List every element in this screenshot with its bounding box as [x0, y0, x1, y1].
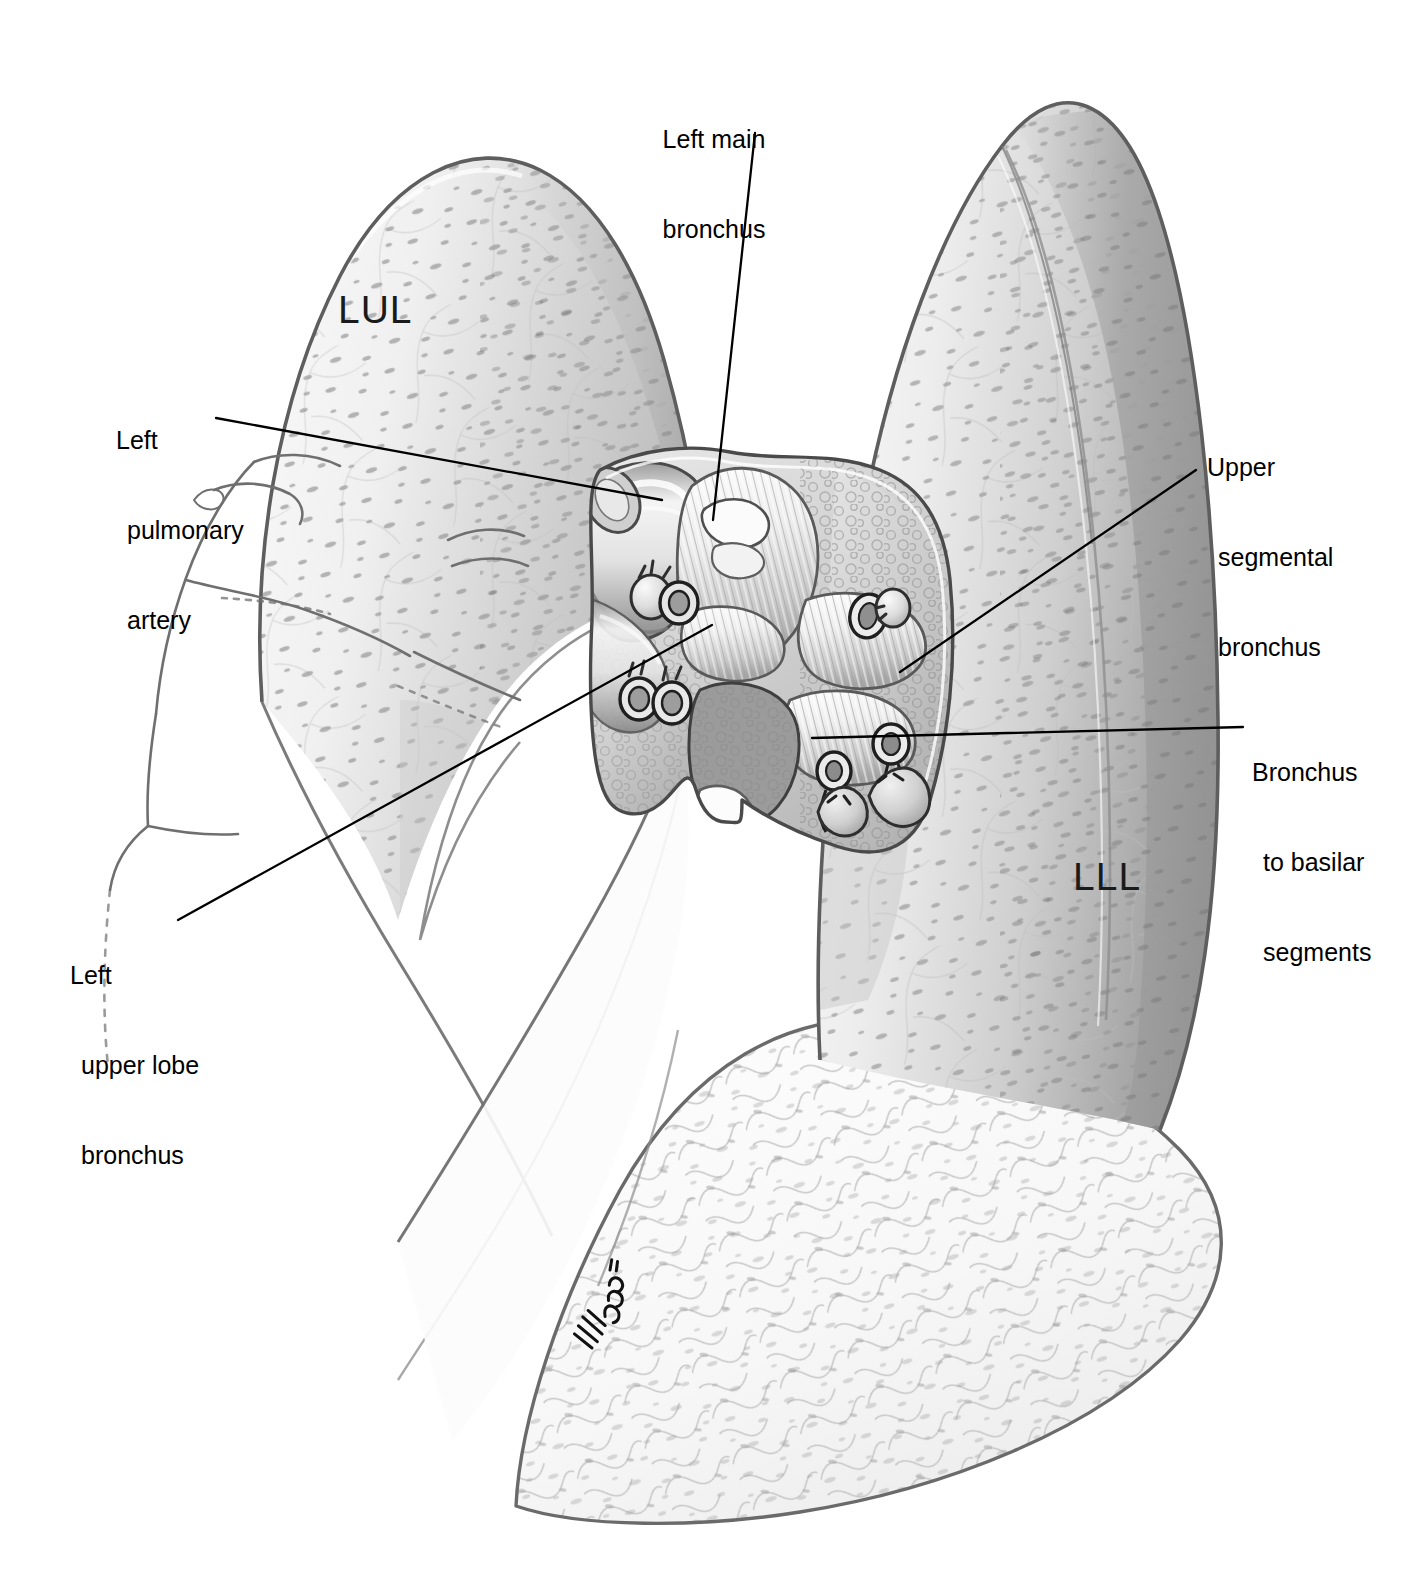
stump-upper-left-b [660, 582, 698, 624]
label-upper-segmental-bronchus: Upper segmental bronchus [1207, 392, 1333, 722]
label-line: to basilar [1252, 847, 1371, 877]
label-line: bronchus [614, 214, 814, 244]
label-left-upper-lobe-bronchus: Left upper lobe bronchus [70, 900, 199, 1230]
label-line: Left main [614, 124, 814, 154]
label-line: Bronchus [1252, 757, 1371, 787]
label-line: Left [116, 425, 244, 455]
lobe-tag-lll: LLL [1073, 855, 1141, 899]
label-bronchus-to-basilar-segments: Bronchus to basilar segments [1252, 697, 1371, 1027]
label-line: bronchus [1207, 632, 1333, 662]
label-line: Left [70, 960, 199, 990]
label-line: segmental [1207, 542, 1333, 572]
label-line: pulmonary [116, 515, 244, 545]
label-left-main-bronchus: Left main bronchus [614, 64, 814, 304]
label-line: upper lobe [70, 1050, 199, 1080]
stump-right-upper-b [876, 589, 910, 627]
label-line: segments [1252, 937, 1371, 967]
lobe-tag-lul: LUL [338, 288, 413, 332]
label-line: bronchus [70, 1140, 199, 1170]
label-left-pulmonary-artery: Left pulmonary artery [116, 365, 244, 695]
label-line: artery [116, 605, 244, 635]
label-line: Upper [1207, 452, 1333, 482]
